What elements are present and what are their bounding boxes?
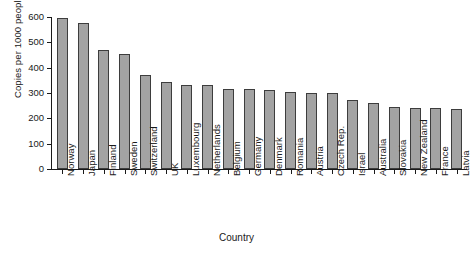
- x-axis-title: Country: [0, 232, 473, 243]
- x-tick-label: Austria: [315, 146, 325, 176]
- y-tick-label: 400: [18, 63, 44, 73]
- bar: [161, 82, 172, 169]
- x-tick-label: Sweden: [129, 141, 139, 176]
- x-tick-label: New Zealand: [419, 119, 429, 176]
- x-tick-label: Luxembourg: [191, 123, 201, 176]
- x-tick-label: Czech Rep.: [336, 126, 346, 176]
- x-tick-label: Australia: [378, 139, 388, 176]
- x-axis-tick-labels: NorwayJapanFinlandSwedenSwitzerlandUKLux…: [52, 174, 467, 232]
- x-tick-label: Latvia: [461, 150, 471, 176]
- x-tick-label: Norway: [66, 143, 76, 176]
- x-tick-label: Romania: [295, 138, 305, 176]
- y-tick-label: 200: [18, 114, 44, 124]
- y-tick-label: 0: [18, 164, 44, 174]
- x-tick-label: Belgium: [232, 141, 242, 176]
- x-tick-label: Slovakia: [398, 140, 408, 176]
- y-tick-label: 100: [18, 139, 44, 149]
- y-axis-tick-labels: 0100200300400500600: [18, 0, 44, 254]
- x-tick-label: Denmark: [274, 137, 284, 176]
- bar: [78, 23, 89, 169]
- x-tick-label: Switzerland: [149, 126, 159, 176]
- y-tick-label: 500: [18, 38, 44, 48]
- x-tick-label: Israel: [357, 152, 367, 176]
- x-tick-label: UK: [170, 163, 180, 176]
- bar-chart-figure: Copies per 1000 people 01002003004005006…: [0, 0, 473, 254]
- x-tick-label: Netherlands: [212, 124, 222, 176]
- x-tick-label: Japan: [87, 150, 97, 176]
- x-tick-label: Germany: [253, 137, 263, 176]
- y-tick-label: 300: [18, 88, 44, 98]
- x-tick-label: Finland: [108, 144, 118, 176]
- y-tick-label: 600: [18, 12, 44, 22]
- x-tick-label: France: [440, 146, 450, 176]
